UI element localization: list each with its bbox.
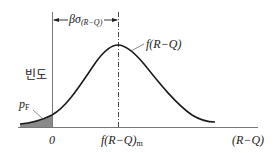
arrowhead-left-icon [53, 18, 59, 22]
failure-probability-label: pF [19, 98, 29, 112]
density-curve [20, 45, 215, 124]
arrowhead-right-icon [112, 18, 118, 22]
origin-label: 0 [49, 134, 55, 146]
y-axis-label: 빈도 [25, 69, 47, 81]
beta-sigma-label: βσ(R−Q) [69, 13, 102, 27]
mean-label: f(R−Q)m [101, 134, 143, 148]
curve-label-leader [131, 44, 144, 51]
x-axis-label: (R−Q) [232, 134, 264, 146]
curve-label: f(R−Q) [146, 38, 181, 50]
pf-leader [33, 110, 42, 118]
